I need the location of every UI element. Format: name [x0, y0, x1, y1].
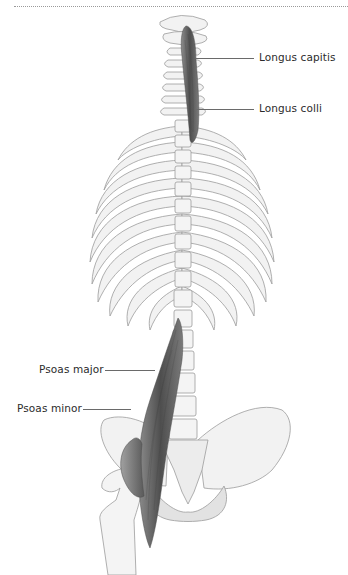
label-psoas-major: Psoas major	[39, 363, 104, 375]
leader-longus-colli	[196, 109, 254, 110]
leader-psoas-major	[105, 370, 155, 371]
label-psoas-minor: Psoas minor	[17, 402, 82, 414]
leader-longus-capitis	[196, 58, 254, 59]
label-longus-colli: Longus colli	[259, 102, 322, 114]
leader-psoas-minor	[83, 409, 131, 410]
skeleton-illustration	[0, 0, 348, 575]
label-longus-capitis: Longus capitis	[259, 51, 336, 63]
